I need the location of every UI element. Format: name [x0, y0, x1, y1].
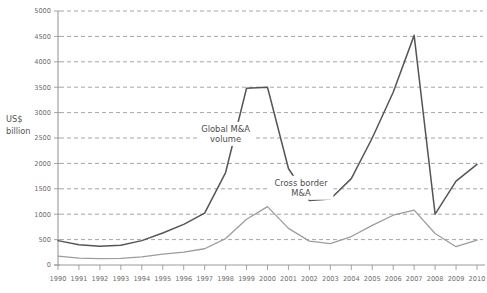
xtick-label-2002: 2002 — [301, 275, 318, 283]
ytick-label-2500: 2500 — [34, 134, 51, 142]
ytick-label-1500: 1500 — [34, 185, 51, 193]
ytick-label-1000: 1000 — [34, 211, 51, 219]
xtick-label-2000: 2000 — [259, 275, 276, 283]
ytick-label-3000: 3000 — [34, 109, 51, 117]
line-chart: 0500100015002000250030003500400045005000… — [0, 0, 487, 293]
xtick-label-2006: 2006 — [385, 275, 402, 283]
xtick-label-2004: 2004 — [343, 275, 360, 283]
chart-container: 0500100015002000250030003500400045005000… — [0, 0, 487, 293]
xtick-label-1996: 1996 — [175, 275, 192, 283]
ytick-label-5000: 5000 — [34, 7, 51, 15]
annotation-global-ma-volume-line1: Global M&A — [201, 124, 250, 134]
ytick-label-0: 0 — [47, 261, 51, 269]
xtick-label-2010: 2010 — [469, 275, 486, 283]
xtick-label-1997: 1997 — [196, 275, 213, 283]
annotation-cross-border-ma-line1: Cross border — [274, 178, 328, 188]
xtick-label-2007: 2007 — [406, 275, 423, 283]
xtick-label-2009: 2009 — [448, 275, 465, 283]
xtick-label-1998: 1998 — [217, 275, 234, 283]
xtick-label-2001: 2001 — [280, 275, 297, 283]
xtick-label-1993: 1993 — [112, 275, 129, 283]
ytick-label-2000: 2000 — [34, 160, 51, 168]
ytick-label-4000: 4000 — [34, 58, 51, 66]
ytick-label-3500: 3500 — [34, 84, 51, 92]
annotation-cross-border-ma-line2: M&A — [291, 188, 311, 198]
annotation-global-ma-volume-line2: volume — [210, 134, 241, 144]
xtick-label-1991: 1991 — [71, 275, 88, 283]
xtick-label-1990: 1990 — [50, 275, 67, 283]
xtick-label-1999: 1999 — [238, 275, 255, 283]
y-axis-title-line2: billion — [6, 126, 31, 136]
series-line-global-ma-volume — [58, 35, 477, 246]
ytick-label-500: 500 — [38, 236, 51, 244]
ytick-label-4500: 4500 — [34, 33, 51, 41]
xtick-label-2008: 2008 — [427, 275, 444, 283]
xtick-label-1994: 1994 — [133, 275, 150, 283]
xtick-label-1995: 1995 — [154, 275, 171, 283]
xtick-label-2005: 2005 — [364, 275, 381, 283]
series-line-cross-border-ma — [58, 207, 477, 259]
y-axis-title-line1: US$ — [6, 114, 22, 124]
xtick-label-1992: 1992 — [92, 275, 109, 283]
xtick-label-2003: 2003 — [322, 275, 339, 283]
